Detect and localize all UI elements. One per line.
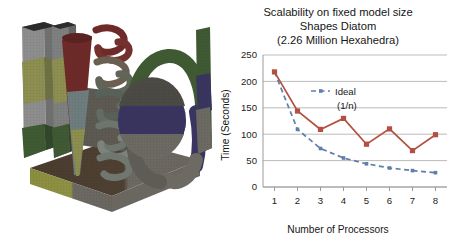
- data-point-marker: [365, 162, 369, 166]
- y-tick-label: 100: [241, 129, 257, 140]
- data-point-marker: [296, 128, 300, 132]
- x-tick-label: 5: [364, 195, 369, 206]
- legend-sublabel-ideal: (1/n): [337, 100, 357, 111]
- x-tick-label: 1: [272, 195, 277, 206]
- x-tick-label: 6: [387, 195, 392, 206]
- data-point-marker: [318, 127, 323, 132]
- y-tick-label: 50: [246, 155, 257, 166]
- data-point-marker: [433, 132, 438, 137]
- data-point-marker: [364, 142, 369, 147]
- legend-label-ideal: Ideal: [335, 86, 356, 97]
- sphere: [118, 77, 186, 159]
- model-3d-image: [0, 0, 215, 241]
- data-point-marker: [388, 166, 392, 170]
- data-point-marker: [387, 126, 392, 131]
- chart-svg: Scalability on fixed model size Shapes D…: [215, 0, 461, 241]
- y-tick-label: 150: [241, 102, 257, 113]
- legend-marker-ideal: [319, 89, 323, 93]
- data-point-marker: [295, 108, 300, 113]
- data-point-marker: [411, 169, 415, 173]
- x-tick-label: 2: [295, 195, 300, 206]
- data-point-marker: [342, 156, 346, 160]
- data-point-marker: [319, 147, 323, 151]
- y-tick-label: 250: [241, 49, 257, 60]
- y-tick-label: 200: [241, 76, 257, 87]
- figure-root: Scalability on fixed model size Shapes D…: [0, 0, 461, 241]
- y-tick-label: 0: [252, 181, 257, 192]
- right-slab: [196, 27, 212, 154]
- data-point-marker: [434, 171, 438, 175]
- model-3d-svg: [0, 0, 215, 241]
- data-point-marker: [272, 69, 277, 74]
- x-tick-label: 4: [341, 195, 347, 206]
- x-tick-label: 8: [433, 195, 438, 206]
- data-point-marker: [410, 148, 415, 153]
- x-tick-label: 3: [318, 195, 323, 206]
- chart-title: Scalability on fixed model size: [263, 6, 412, 18]
- chart-subtitle: Shapes Diatom: [300, 20, 377, 32]
- scalability-chart: Scalability on fixed model size Shapes D…: [215, 0, 461, 241]
- x-tick-label: 7: [410, 195, 415, 206]
- data-point-marker: [341, 116, 346, 121]
- y-axis-label: Time (Seconds): [220, 89, 231, 161]
- chart-subtitle-2: (2.26 Million Hexahedra): [277, 34, 399, 46]
- x-axis-label: Number of Processors: [287, 224, 388, 235]
